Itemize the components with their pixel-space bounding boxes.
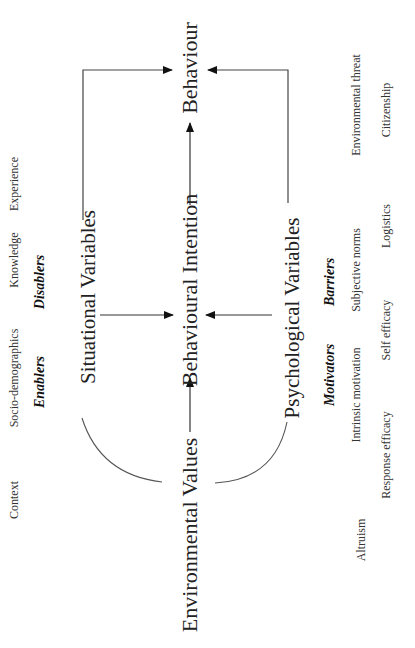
psych-item-intrinsic-motivation: Intrinsic motivation: [350, 348, 362, 443]
group-enablers: Enablers: [33, 356, 47, 408]
curve-values-to-psychological: [215, 422, 287, 483]
psych-item-altruism: Altruism: [355, 519, 367, 562]
psych-item-subjective-norms: Subjective norms: [350, 228, 362, 312]
group-disablers: Disablers: [33, 255, 47, 309]
psych-item-logistics: Logistics: [380, 204, 392, 248]
situational-item-socio-demographics: Socio-demographics: [8, 329, 20, 428]
situational-item-context: Context: [8, 481, 20, 519]
node-situational-variables: Situational Variables: [78, 210, 99, 384]
situational-item-experience: Experience: [8, 157, 20, 211]
node-behaviour: Behaviour: [179, 22, 201, 114]
psych-item-self-efficacy: Self efficacy: [380, 300, 392, 361]
situational-item-knowledge: Knowledge: [8, 232, 20, 287]
group-motivators: Motivators: [323, 344, 337, 406]
node-environmental-values: Environmental Values: [179, 438, 201, 633]
diagram-canvas: Behaviour Behavioural Intention Environm…: [0, 0, 415, 648]
psych-item-environmental-threat: Environmental threat: [350, 54, 362, 156]
node-psychological-variables: Psychological Variables: [282, 218, 303, 419]
psych-item-citizenship: Citizenship: [380, 83, 392, 138]
psych-item-response-efficacy: Response efficacy: [380, 411, 392, 498]
group-barriers: Barriers: [323, 258, 337, 306]
node-behavioural-intention: Behavioural Intention: [179, 194, 201, 386]
edge-situational-to-behaviour: [83, 70, 172, 220]
edge-psychological-to-behaviour: [208, 70, 288, 203]
curve-values-to-situational: [82, 418, 162, 482]
